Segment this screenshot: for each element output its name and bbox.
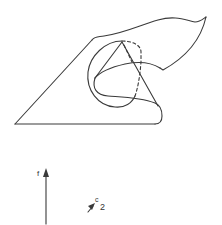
cone-left-line <box>95 42 122 78</box>
small-arrow-subscript: 2 <box>100 202 105 212</box>
fold-lobe <box>94 78 162 124</box>
vertical-arrow-head-icon <box>43 168 49 177</box>
diagram-canvas: f c 2 <box>0 0 222 225</box>
small-arrow-head-icon <box>88 203 95 210</box>
vertical-arrow-label: f <box>37 169 40 178</box>
sheet-top-edge <box>92 17 206 40</box>
circle-hidden-dashed <box>122 41 141 96</box>
sheet-right-edge <box>160 17 206 70</box>
sheet-left-edge <box>15 40 92 124</box>
small-arrow-letter: c <box>95 196 99 203</box>
